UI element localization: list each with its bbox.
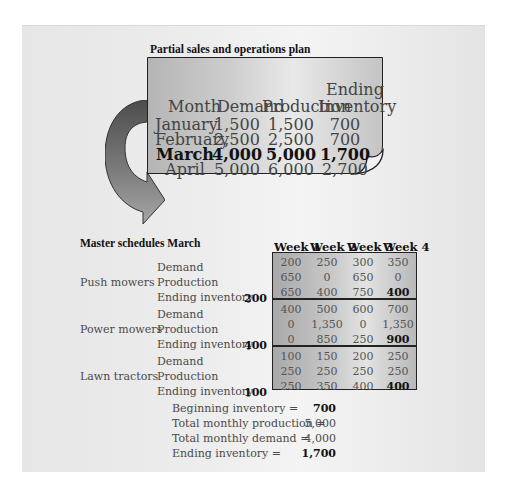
row-label-production: Production bbox=[157, 276, 218, 289]
cell: 200 bbox=[273, 256, 309, 269]
beginning-inventory: 400 bbox=[237, 339, 267, 352]
cell: 0 bbox=[345, 318, 381, 331]
cell: 300 bbox=[345, 256, 381, 269]
cell: 350 bbox=[309, 380, 345, 393]
cell: 150 bbox=[309, 350, 345, 363]
row-label-demand: Demand bbox=[157, 355, 203, 368]
cell: 0 bbox=[380, 271, 416, 284]
cell: 200 bbox=[345, 350, 381, 363]
plan-production: 6,000 bbox=[266, 160, 316, 179]
summary-value: 700 bbox=[296, 402, 336, 415]
master-schedule-title: Master schedules March bbox=[80, 237, 200, 249]
cell: 400 bbox=[380, 286, 416, 299]
cell: 250 bbox=[273, 380, 309, 393]
beginning-inventory: 200 bbox=[237, 292, 267, 305]
cell: 100 bbox=[273, 350, 309, 363]
summary-label: Beginning inventory = bbox=[172, 402, 298, 415]
cell: 650 bbox=[273, 286, 309, 299]
col-header-inventory: Inventory bbox=[318, 97, 396, 116]
cell: 500 bbox=[309, 303, 345, 316]
cell: 1,350 bbox=[380, 318, 416, 331]
cell: 650 bbox=[273, 271, 309, 284]
cell: 400 bbox=[309, 286, 345, 299]
cell: 0 bbox=[273, 333, 309, 346]
cell: 400 bbox=[273, 303, 309, 316]
cell: 0 bbox=[309, 271, 345, 284]
cell: 250 bbox=[273, 365, 309, 378]
product-name: Lawn tractors bbox=[80, 370, 158, 383]
cell: 400 bbox=[345, 380, 381, 393]
cell: 350 bbox=[380, 256, 416, 269]
cell: 1,350 bbox=[309, 318, 345, 331]
cell: 400 bbox=[380, 380, 416, 393]
summary-label: Total monthly demand = bbox=[172, 432, 309, 445]
cell: 700 bbox=[380, 303, 416, 316]
cell: 250 bbox=[309, 365, 345, 378]
plan-ending: 2,700 bbox=[320, 160, 370, 179]
row-label-production: Production bbox=[157, 370, 218, 383]
master-schedule-grid: 200 250 300 350 650 0 650 0 650 400 750 … bbox=[272, 252, 417, 390]
cell: 250 bbox=[345, 365, 381, 378]
beginning-inventory: 100 bbox=[237, 386, 267, 399]
col-header-month: Month bbox=[168, 97, 221, 116]
cell: 250 bbox=[309, 256, 345, 269]
summary-value: 4,000 bbox=[296, 432, 336, 445]
cell: 900 bbox=[380, 333, 416, 346]
cell: 850 bbox=[309, 333, 345, 346]
cell: 250 bbox=[380, 350, 416, 363]
row-label-production: Production bbox=[157, 323, 218, 336]
row-label-demand: Demand bbox=[157, 261, 203, 274]
plan-demand: 5,000 bbox=[212, 160, 262, 179]
cell: 600 bbox=[345, 303, 381, 316]
plan-title: Partial sales and operations plan bbox=[150, 43, 310, 55]
product-name: Push mowers bbox=[80, 276, 155, 289]
cell: 250 bbox=[345, 333, 381, 346]
cell: 250 bbox=[380, 365, 416, 378]
plan-month: April bbox=[155, 160, 215, 179]
summary-label: Ending inventory = bbox=[172, 447, 281, 460]
cell: 650 bbox=[345, 271, 381, 284]
summary-value: 5,000 bbox=[296, 417, 336, 430]
row-label-demand: Demand bbox=[157, 308, 203, 321]
summary-value: 1,700 bbox=[296, 447, 336, 460]
product-name: Power mowers bbox=[80, 323, 162, 336]
cell: 750 bbox=[345, 286, 381, 299]
cell: 0 bbox=[273, 318, 309, 331]
